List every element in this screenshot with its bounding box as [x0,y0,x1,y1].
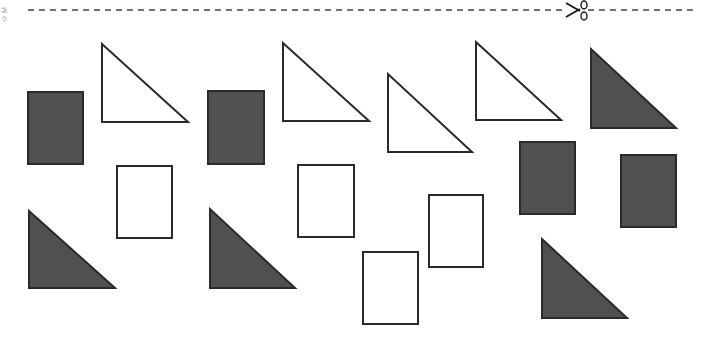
shapes-canvas [0,0,701,344]
filled-right-triangle-4 [29,211,115,288]
outline-right-triangle-2 [102,44,188,122]
filled-right-triangle-14 [591,49,676,128]
outline-rectangle-3 [117,166,172,238]
outline-right-triangle-6 [283,43,369,121]
filled-rectangle-15 [621,155,676,227]
scissors-icon [566,1,587,20]
outline-right-triangle-9 [388,74,472,152]
outline-right-triangle-12 [476,42,561,120]
outline-rectangle-10 [363,252,418,324]
worksheet-page: © M [0,0,701,344]
outline-rectangle-11 [429,195,483,267]
filled-right-triangle-8 [210,209,295,288]
outline-rectangle-7 [298,165,354,237]
filled-rectangle-13 [520,142,575,214]
filled-rectangle-1 [28,92,83,164]
filled-right-triangle-16 [542,239,627,318]
shapes-group [28,42,676,324]
copyright-mark: © M [0,2,10,22]
filled-rectangle-5 [208,91,264,164]
